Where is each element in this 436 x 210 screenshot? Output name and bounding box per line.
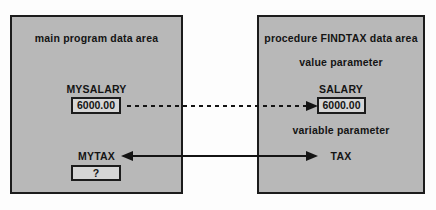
value-parameter-heading: value parameter (259, 56, 423, 69)
salary-value-box: 6000.00 (317, 97, 366, 114)
mytax-label: MYTAX (12, 150, 181, 163)
variable-parameter-heading: variable parameter (259, 124, 423, 137)
main-program-area-title: main program data area (12, 32, 181, 45)
parameter-passing-diagram: main program data area MYSALARY 6000.00 … (0, 0, 436, 210)
findtax-data-area: procedure FINDTAX data area value parame… (257, 15, 425, 194)
mysalary-value-box: 6000.00 (71, 97, 121, 114)
main-program-data-area: main program data area MYSALARY 6000.00 … (10, 15, 183, 194)
salary-label: SALARY (259, 83, 423, 96)
mysalary-label: MYSALARY (12, 83, 181, 96)
tax-label: TAX (259, 150, 423, 163)
findtax-area-title: procedure FINDTAX data area (259, 32, 423, 45)
mytax-value-box: ? (71, 165, 121, 181)
